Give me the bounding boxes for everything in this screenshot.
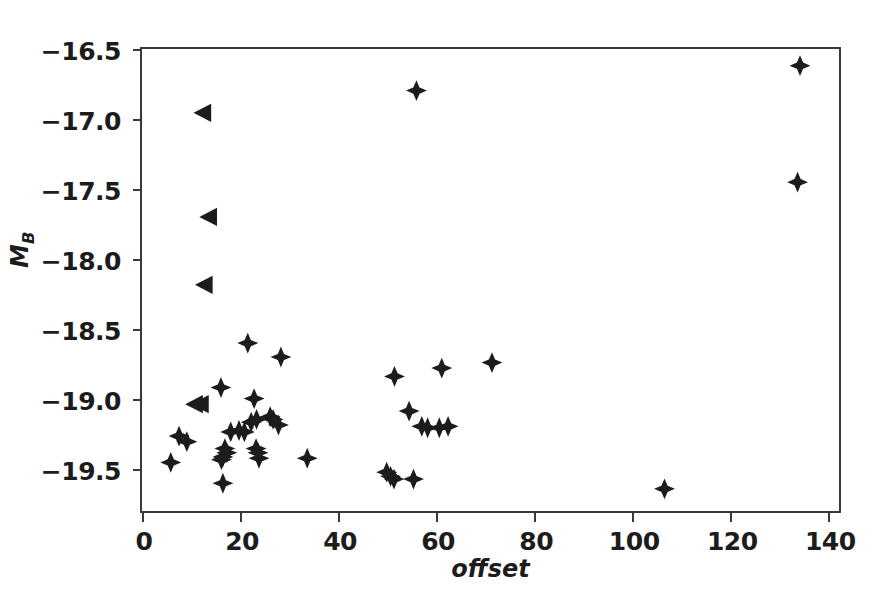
scatter-points-layer — [142, 49, 839, 511]
data-point — [431, 358, 452, 379]
plot-area: −16.5−17.0−17.5−18.0−18.5−19.0−19.502040… — [140, 47, 841, 513]
data-point — [384, 366, 405, 387]
y-axis-tick: −18.5 — [133, 329, 142, 331]
y-axis-tick-label: −17.5 — [41, 176, 121, 205]
y-axis-tick-label: −19.0 — [41, 386, 121, 415]
data-point-upper-limit — [199, 208, 217, 226]
x-axis-tick-label: 20 — [225, 527, 259, 556]
x-axis-tick: 0 — [142, 513, 144, 522]
data-point — [212, 473, 233, 494]
series-upper-limits — [185, 104, 217, 414]
x-axis-tick-label: 40 — [323, 527, 357, 556]
data-point — [654, 478, 675, 499]
y-axis-tick-label: −19.5 — [41, 456, 121, 485]
scatter-plot-figure: MB −16.5−17.0−17.5−18.0−18.5−19.0−19.502… — [0, 0, 875, 604]
y-axis-tick: −17.5 — [133, 189, 142, 191]
x-axis-tick: 140 — [828, 513, 830, 522]
x-axis-tick: 80 — [534, 513, 536, 522]
data-point — [406, 80, 427, 101]
x-axis-tick-label: 140 — [805, 527, 856, 556]
y-axis-label-base: M — [6, 244, 34, 268]
y-axis-tick-label: −18.0 — [41, 246, 121, 275]
data-point-upper-limit — [195, 276, 213, 294]
x-axis-tick-label: 80 — [519, 527, 553, 556]
data-point — [237, 333, 258, 354]
x-axis-tick: 20 — [240, 513, 242, 522]
series-detections — [160, 55, 810, 499]
x-axis-tick-label: 60 — [421, 527, 455, 556]
y-axis-label-subscript: B — [19, 232, 38, 244]
y-axis-tick-label: −17.0 — [41, 106, 121, 135]
y-axis-tick: −16.5 — [133, 49, 142, 51]
x-axis-tick: 100 — [632, 513, 634, 522]
x-axis-tick: 60 — [436, 513, 438, 522]
y-axis-tick: −19.0 — [133, 399, 142, 401]
data-point — [297, 448, 318, 469]
x-axis-tick-label: 0 — [136, 527, 153, 556]
data-point — [160, 452, 181, 473]
data-point — [211, 377, 232, 398]
y-axis-tick-label: −18.5 — [41, 316, 121, 345]
data-point — [403, 469, 424, 490]
data-point — [787, 172, 808, 193]
x-axis-tick-label: 100 — [609, 527, 660, 556]
y-axis-tick: −18.0 — [133, 259, 142, 261]
y-axis-tick: −17.0 — [133, 119, 142, 121]
data-point — [399, 401, 420, 422]
x-axis-tick-label: 120 — [707, 527, 758, 556]
x-axis-tick: 40 — [338, 513, 340, 522]
data-point — [790, 55, 811, 76]
data-point — [244, 388, 265, 409]
x-axis-label: offset — [140, 555, 841, 583]
y-axis-tick-label: −16.5 — [41, 37, 121, 66]
data-point-upper-limit — [193, 104, 211, 122]
data-point — [482, 352, 503, 373]
x-axis-tick: 120 — [730, 513, 732, 522]
y-axis-tick: −19.5 — [133, 469, 142, 471]
y-axis-label: MB — [6, 232, 38, 268]
data-point — [270, 347, 291, 368]
